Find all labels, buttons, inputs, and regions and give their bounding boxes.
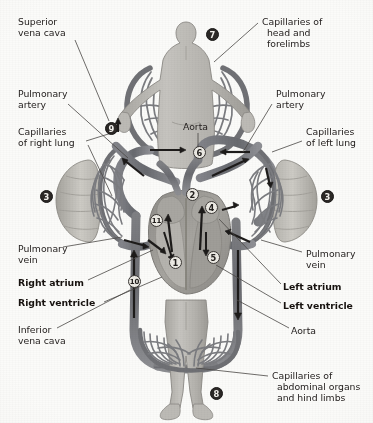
marker-3-right-lung: 3 xyxy=(40,190,53,203)
label-aorta-lower: Aorta xyxy=(291,325,316,336)
label-capillaries-of-abdominal-organs-and-hind-limbs: Capillaries ofabdominal organsand hind l… xyxy=(272,370,360,404)
marker-7: 7 xyxy=(206,28,219,41)
label-superior-vena-cava: Superiorvena cava xyxy=(18,16,66,38)
label-right-ventricle: Right ventricle xyxy=(18,297,95,308)
label-left-atrium: Left atrium xyxy=(283,281,342,292)
marker-3-left-lung: 3 xyxy=(321,190,334,203)
marker-11: 11 xyxy=(150,214,163,227)
marker-4: 4 xyxy=(205,201,218,214)
label-pulmonary-artery-left: Pulmonaryartery xyxy=(18,88,67,110)
marker-1: 1 xyxy=(169,256,182,269)
marker-9: 9 xyxy=(105,122,118,135)
label-right-atrium: Right atrium xyxy=(18,277,84,288)
label-left-ventricle: Left ventricle xyxy=(283,300,353,311)
label-pulmonary-vein-left: Pulmonaryvein xyxy=(18,243,67,265)
label-pulmonary-artery-right: Pulmonaryartery xyxy=(276,88,325,110)
marker-8: 8 xyxy=(210,387,223,400)
circulatory-system-illustration xyxy=(0,0,373,423)
label-pulmonary-vein-right: Pulmonaryvein xyxy=(306,248,355,270)
figure-canvas: Superiorvena cava Pulmonaryartery Capill… xyxy=(0,0,373,423)
label-capillaries-of-right-lung: Capillariesof right lung xyxy=(18,126,75,148)
marker-5: 5 xyxy=(207,251,220,264)
label-capillaries-of-left-lung: Capillariesof left lung xyxy=(306,126,356,148)
label-aorta-upper: Aorta xyxy=(183,121,208,132)
label-capillaries-of-head-and-forelimbs: Capillaries ofhead andforelimbs xyxy=(262,16,322,50)
marker-10: 10 xyxy=(128,275,141,288)
marker-2: 2 xyxy=(186,188,199,201)
marker-6: 6 xyxy=(193,146,206,159)
label-inferior-vena-cava: Inferiorvena cava xyxy=(18,324,66,346)
